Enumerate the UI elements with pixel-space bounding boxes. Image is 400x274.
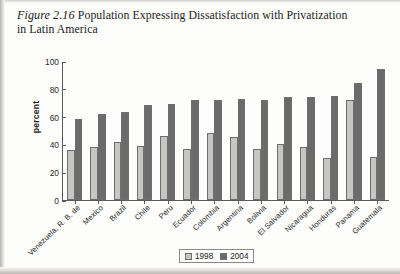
bar-group [63,62,86,200]
legend-label: 2004 [230,252,248,261]
y-axis-tick: 60 [22,113,66,123]
bar-2004 [284,97,292,200]
y-axis-tick-label: 20 [50,168,59,178]
page-edge-top [0,0,400,3]
chart-plot-area: percent 020406080100 [62,62,389,201]
figure-container: Figure 2.16 Population Expressing Dissat… [0,0,400,274]
x-axis-label-text: Brazil [108,203,128,223]
y-axis-tick: 20 [22,168,66,178]
bar-2004 [168,104,176,200]
legend-item-1998: 1998 [185,252,213,261]
x-axis-label-text: Peru [157,203,175,221]
bar-group [133,62,156,200]
y-axis-tick: 100 [22,57,66,67]
bar-1998 [160,136,168,200]
bar-group [110,62,133,200]
bar-group [156,62,179,200]
bar-2004 [144,105,152,200]
bar-1998 [67,150,75,200]
page-edge-left [0,0,5,274]
x-axis-label-text: Chile [132,203,151,222]
bar-1998 [183,149,191,200]
bar-group [179,62,202,200]
bar-groups [63,62,389,200]
y-axis-tick: 0 [22,196,66,206]
bar-2004 [191,100,199,200]
y-axis-tick: 40 [22,140,66,150]
y-axis-tick-label: 80 [50,85,59,95]
bar-group [203,62,226,200]
figure-caption: Figure 2.16 Population Expressing Dissat… [17,8,357,36]
chart-legend: 19982004 [179,249,254,263]
y-axis-tick-label: 40 [50,140,59,150]
figure-number: Figure 2.16 [17,8,75,22]
y-axis-tick-label: 100 [45,57,59,67]
page-edge-bottom [0,267,400,274]
x-axis-label-text: Mexico [81,203,105,227]
legend-item-2004: 2004 [220,252,248,261]
y-axis-tick-label: 0 [54,196,59,206]
legend-swatch [185,253,192,260]
legend-label: 1998 [195,252,213,261]
y-axis-tick: 80 [22,85,66,95]
y-axis-tick-label: 60 [50,113,59,123]
bar-2004 [75,119,83,200]
legend-swatch [220,253,227,260]
bar-group [273,62,296,200]
bar-group [366,62,389,200]
bar-2004 [377,69,385,200]
x-axis-label-text: Venezuela, R. B. de [26,203,82,257]
